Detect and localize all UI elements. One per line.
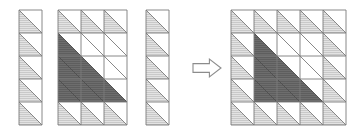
mesh-cell xyxy=(231,56,254,79)
mesh-cell xyxy=(81,33,104,56)
mesh-cell xyxy=(254,79,277,102)
mesh-cell xyxy=(81,56,104,79)
mesh-cell xyxy=(146,102,169,125)
mesh-cell xyxy=(231,33,254,56)
mesh-cell xyxy=(104,102,127,125)
mesh-cell xyxy=(300,79,323,102)
mesh-cell xyxy=(104,79,127,102)
mesh-cell xyxy=(19,10,42,33)
right-arrow-icon xyxy=(192,58,222,78)
mesh-cell xyxy=(254,10,277,33)
arrow-shape xyxy=(193,59,221,77)
mesh-cell xyxy=(81,10,104,33)
mesh-cell xyxy=(104,56,127,79)
result-five-by-five-grid xyxy=(231,10,346,125)
left-column-grid xyxy=(19,10,42,125)
mesh-cell xyxy=(323,56,346,79)
mesh-cell xyxy=(323,102,346,125)
mesh-cell xyxy=(277,102,300,125)
mesh-cell xyxy=(277,10,300,33)
mesh-cell xyxy=(254,56,277,79)
mesh-cell xyxy=(58,33,81,56)
mesh-cell xyxy=(300,56,323,79)
mesh-cell xyxy=(146,33,169,56)
mesh-cell xyxy=(81,102,104,125)
mesh-cell xyxy=(58,56,81,79)
mesh-cell xyxy=(231,102,254,125)
mesh-cell xyxy=(19,56,42,79)
mesh-cell xyxy=(277,56,300,79)
mesh-cell xyxy=(58,102,81,125)
mesh-cell xyxy=(254,102,277,125)
mesh-cell xyxy=(146,56,169,79)
mesh-cell xyxy=(104,33,127,56)
mesh-cell xyxy=(300,10,323,33)
mesh-cell xyxy=(300,33,323,56)
mesh-cell xyxy=(323,33,346,56)
mesh-cell xyxy=(231,79,254,102)
mesh-cell xyxy=(323,10,346,33)
mesh-cell xyxy=(19,102,42,125)
mesh-cell xyxy=(254,33,277,56)
mesh-cell xyxy=(146,79,169,102)
mesh-cell xyxy=(146,10,169,33)
mesh-cell xyxy=(231,10,254,33)
mesh-cell xyxy=(58,10,81,33)
mesh-cell xyxy=(19,79,42,102)
middle-three-column-grid xyxy=(58,10,127,125)
mesh-cell xyxy=(323,79,346,102)
right-column-grid xyxy=(146,10,169,125)
mesh-cell xyxy=(277,33,300,56)
mesh-cell xyxy=(104,10,127,33)
mesh-cell xyxy=(300,102,323,125)
figure-canvas xyxy=(0,0,361,134)
mesh-cell xyxy=(58,79,81,102)
mesh-cell xyxy=(277,79,300,102)
mesh-cell xyxy=(19,33,42,56)
mesh-cell xyxy=(81,79,104,102)
